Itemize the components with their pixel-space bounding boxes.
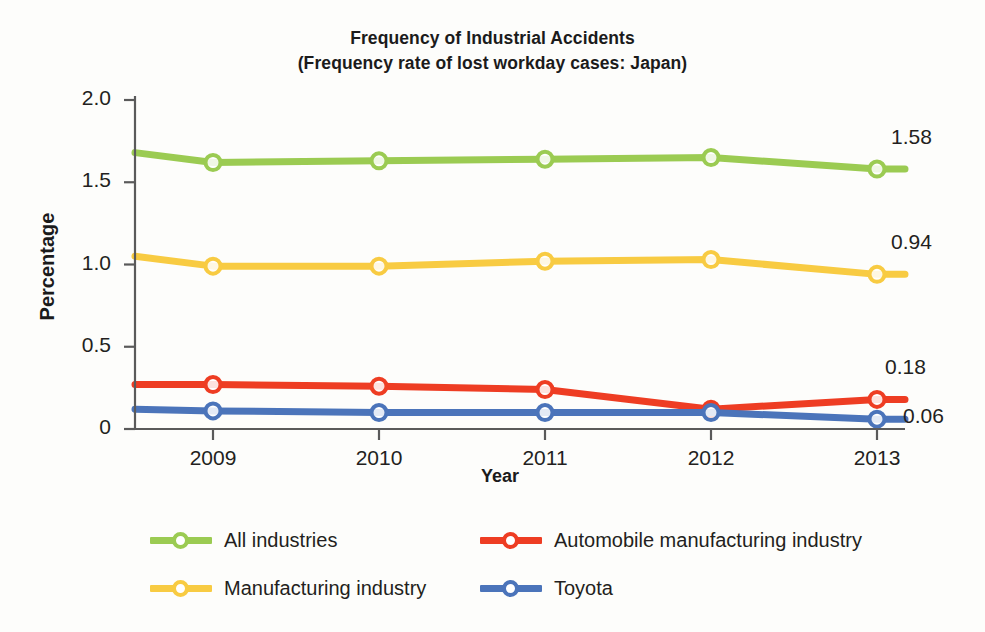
legend-item-manufacturing-industry[interactable]: Manufacturing industry (150, 577, 480, 600)
y-tick-label: 1.5 (41, 168, 111, 192)
x-tick-label: 2009 (158, 446, 268, 470)
y-tick-label: 0 (41, 415, 111, 439)
legend-label-toyota: Toyota (554, 577, 613, 600)
legend-item-toyota[interactable]: Toyota (480, 577, 920, 600)
data-point-marker[interactable] (704, 150, 719, 165)
x-tick-label: 2010 (324, 446, 434, 470)
data-point-marker[interactable] (206, 259, 221, 274)
series-line (135, 153, 905, 169)
data-point-marker[interactable] (704, 252, 719, 267)
data-point-marker[interactable] (538, 152, 553, 167)
legend-swatch-manufacturing-industry (150, 577, 212, 599)
series-line (135, 256, 905, 274)
y-tick-label: 2.0 (41, 86, 111, 110)
series-layer (135, 150, 905, 427)
x-tick-marks (213, 429, 877, 440)
legend-label-all-industries: All industries (224, 529, 337, 552)
legend-swatch-toyota (480, 577, 542, 599)
data-point-marker[interactable] (870, 412, 885, 427)
series-line (135, 409, 905, 419)
data-point-marker[interactable] (372, 259, 387, 274)
data-point-marker[interactable] (538, 405, 553, 420)
chart-legend: All industries Automobile manufacturing … (150, 516, 920, 612)
x-tick-label: 2013 (822, 446, 932, 470)
y-tick-marks (124, 100, 135, 429)
legend-swatch-automobile-manufacturing-industry (480, 529, 542, 551)
legend-swatch-all-industries (150, 529, 212, 551)
data-point-marker[interactable] (870, 267, 885, 282)
data-point-marker[interactable] (538, 382, 553, 397)
data-point-marker[interactable] (538, 254, 553, 269)
data-point-marker[interactable] (206, 155, 221, 170)
data-point-marker[interactable] (372, 153, 387, 168)
data-point-marker[interactable] (372, 405, 387, 420)
data-point-value-label: 0.18 (885, 355, 926, 379)
x-tick-label: 2011 (490, 446, 600, 470)
data-point-value-label: 0.94 (891, 230, 932, 254)
legend-label-manufacturing-industry: Manufacturing industry (224, 577, 426, 600)
y-tick-label: 1.0 (41, 251, 111, 275)
legend-label-automobile-manufacturing-industry: Automobile manufacturing industry (554, 529, 862, 552)
data-point-marker[interactable] (206, 403, 221, 418)
series-line (135, 385, 905, 410)
data-point-value-label: 1.58 (891, 125, 932, 149)
legend-item-all-industries[interactable]: All industries (150, 529, 480, 552)
y-tick-label: 0.5 (41, 333, 111, 357)
x-tick-label: 2012 (656, 446, 766, 470)
data-point-marker[interactable] (870, 392, 885, 407)
data-point-value-label: 0.06 (903, 404, 944, 428)
data-point-marker[interactable] (206, 377, 221, 392)
chart-container: Frequency of Industrial Accidents (Frequ… (0, 0, 985, 632)
data-point-marker[interactable] (704, 405, 719, 420)
legend-item-automobile-manufacturing-industry[interactable]: Automobile manufacturing industry (480, 529, 920, 552)
data-point-marker[interactable] (372, 379, 387, 394)
data-point-marker[interactable] (870, 162, 885, 177)
